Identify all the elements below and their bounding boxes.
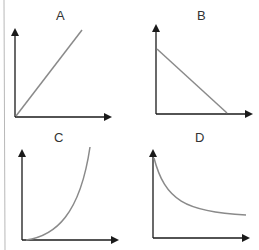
panel-d-label: D	[195, 130, 204, 145]
panel-c-label: C	[54, 130, 63, 145]
panel-b: B	[156, 8, 251, 114]
panel-b-label: B	[197, 8, 206, 23]
panel-a: A	[15, 8, 110, 117]
curve-b	[157, 49, 227, 113]
curve-c	[26, 147, 90, 240]
curve-d	[154, 158, 246, 215]
curve-a	[16, 30, 82, 116]
panel-d: D	[153, 130, 248, 238]
graph-diagram: A B C D	[0, 0, 259, 250]
panel-a-label: A	[56, 8, 65, 23]
left-border	[4, 0, 5, 250]
panel-c: C	[22, 130, 117, 240]
